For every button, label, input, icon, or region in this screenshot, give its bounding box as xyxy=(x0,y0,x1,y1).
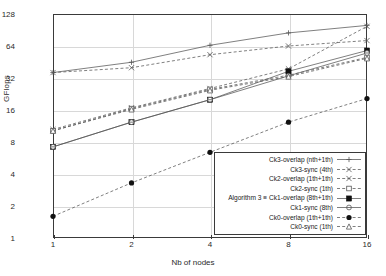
data-point-marker-cross xyxy=(346,176,351,181)
data-point-marker-circle-open xyxy=(346,205,351,210)
x-tick-label: 1 xyxy=(51,240,55,249)
y-tick-label: 2 xyxy=(0,202,15,211)
y-tick-label: 128 xyxy=(0,10,15,19)
legend-symbol xyxy=(336,194,362,203)
legend-label: Ck0-sync (1th) xyxy=(290,222,336,232)
y-tick-label: 64 xyxy=(0,42,15,51)
y-tick-label: 4 xyxy=(0,170,15,179)
legend-symbol xyxy=(336,222,362,231)
x-tick-mark xyxy=(211,235,212,239)
y-tick-label: 32 xyxy=(0,74,15,83)
data-point-marker-plus xyxy=(346,157,351,162)
chart-figure: GFlops Nb of nodes 1286432168421 124816 … xyxy=(0,0,386,276)
data-point-marker-cross-open xyxy=(346,167,351,172)
gridline-horizontal xyxy=(54,111,366,112)
data-point-marker-circle-filled xyxy=(346,215,351,220)
y-tick-label: 8 xyxy=(0,138,15,147)
y-tick-label: 1 xyxy=(0,234,15,243)
data-point-marker-triangle-open xyxy=(346,224,351,229)
legend-item: Ck0-sync (1th) xyxy=(215,222,362,232)
legend-label: Ck2-overlap (1th+1th) xyxy=(269,174,336,184)
legend-label: Algorithm 3 ≡ Ck1-overlap (8th+1th) xyxy=(228,193,336,203)
legend-item: Ck1-sync (8th) xyxy=(215,203,362,213)
x-tick-label: 2 xyxy=(129,240,133,249)
legend-label: Ck2-sync (1th) xyxy=(290,184,336,194)
data-point-marker-square-open xyxy=(347,186,352,191)
legend-symbol xyxy=(336,213,362,222)
data-point-marker-square-filled xyxy=(346,196,351,201)
gridline-vertical xyxy=(133,15,134,237)
legend-symbol xyxy=(336,165,362,174)
legend-item: Ck2-overlap (1th+1th) xyxy=(215,174,362,184)
x-tick-label: 16 xyxy=(363,240,372,249)
x-tick-mark xyxy=(133,235,134,239)
legend-item: Algorithm 3 ≡ Ck1-overlap (8th+1th) xyxy=(215,193,362,203)
gridline-horizontal xyxy=(54,47,366,48)
x-tick-label: 4 xyxy=(208,240,212,249)
legend-symbol xyxy=(336,174,362,183)
legend-label: Ck3-sync (4th) xyxy=(290,165,336,175)
gridline-vertical xyxy=(211,15,212,237)
x-tick-mark xyxy=(54,235,55,239)
x-axis-label: Nb of nodes xyxy=(0,258,386,267)
gridline-horizontal xyxy=(54,143,366,144)
legend-item: Ck3-sync (4th) xyxy=(215,165,362,175)
legend-symbol xyxy=(336,203,362,212)
gridline-horizontal xyxy=(54,79,366,80)
legend-label: Ck3-overlap (nth+1th) xyxy=(269,155,336,165)
legend-box: Ck3-overlap (nth+1th)Ck3-sync (4th)Ck2-o… xyxy=(214,152,366,235)
legend-symbol xyxy=(336,155,362,164)
legend-label: Ck1-sync (8th) xyxy=(290,203,336,213)
x-tick-mark xyxy=(290,235,291,239)
y-tick-label: 16 xyxy=(0,106,15,115)
x-tick-label: 8 xyxy=(286,240,290,249)
legend-symbol xyxy=(336,184,362,193)
legend-item: Ck3-overlap (nth+1th) xyxy=(215,155,362,165)
legend-item: Ck0-overlap (1th+1th) xyxy=(215,213,362,223)
legend-label: Ck0-overlap (1th+1th) xyxy=(269,213,336,223)
x-tick-mark xyxy=(368,235,369,239)
legend-item: Ck2-sync (1th) xyxy=(215,184,362,194)
